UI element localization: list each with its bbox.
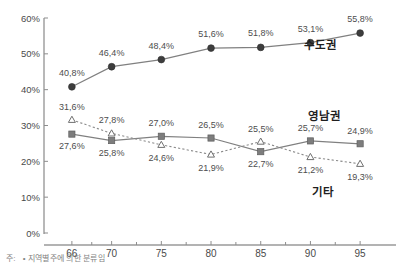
line-chart-canvas: 0%10%20%30%40%50%60%6670758085909540,8%4… bbox=[0, 0, 401, 267]
data-point bbox=[158, 56, 165, 63]
data-point bbox=[69, 131, 75, 137]
x-axis-label: 90 bbox=[305, 248, 317, 259]
data-point bbox=[68, 83, 75, 90]
series-name-label: 기타 bbox=[312, 185, 334, 198]
data-point-label: 46,4% bbox=[99, 48, 125, 58]
data-point-label: 31,6% bbox=[59, 102, 85, 112]
data-point-label: 22,7% bbox=[248, 159, 274, 169]
data-point-label: 40,8% bbox=[59, 68, 85, 78]
marker-triangle-icon bbox=[108, 130, 115, 136]
x-axis-label: 75 bbox=[156, 248, 168, 259]
x-axis-label: 85 bbox=[255, 248, 267, 259]
chart-footnote: 주:• 지역별주에 의한 분류임 bbox=[6, 252, 105, 263]
marker-square-icon bbox=[357, 141, 363, 147]
data-point-label: 25,7% bbox=[298, 123, 324, 133]
data-point-label: 24,6% bbox=[149, 153, 175, 163]
data-point-label: 27,6% bbox=[59, 141, 85, 151]
marker-circle-icon bbox=[208, 45, 215, 52]
footnote-key: 주: bbox=[6, 254, 16, 263]
y-axis-label: 60% bbox=[21, 13, 41, 24]
data-point bbox=[357, 30, 364, 37]
x-axis-label: 80 bbox=[205, 248, 217, 259]
y-axis-label: 40% bbox=[21, 84, 41, 95]
data-point-label: 25,8% bbox=[99, 148, 125, 158]
marker-circle-icon bbox=[68, 83, 75, 90]
data-point-label: 21,2% bbox=[298, 165, 324, 175]
data-point bbox=[307, 138, 313, 144]
data-point bbox=[357, 160, 364, 166]
data-point-label: 25,5% bbox=[248, 124, 274, 134]
marker-triangle-icon bbox=[68, 116, 75, 122]
marker-circle-icon bbox=[158, 56, 165, 63]
footnote-text: • 지역별주에 의한 분류임 bbox=[23, 254, 105, 263]
y-axis-label: 50% bbox=[21, 48, 41, 59]
marker-square-icon bbox=[109, 137, 115, 143]
marker-circle-icon bbox=[108, 63, 115, 70]
marker-circle-icon bbox=[257, 44, 264, 51]
data-point bbox=[208, 45, 215, 52]
data-point bbox=[158, 133, 164, 139]
y-axis-label: 20% bbox=[21, 156, 41, 167]
data-point bbox=[208, 135, 214, 141]
marker-square-icon bbox=[258, 149, 264, 155]
x-axis-label: 70 bbox=[106, 248, 118, 259]
data-point-label: 24,9% bbox=[347, 126, 373, 136]
data-point-label: 27,0% bbox=[149, 118, 175, 128]
y-axis-label: 10% bbox=[21, 192, 41, 203]
data-point-label: 53,1% bbox=[298, 24, 324, 34]
marker-triangle-icon bbox=[158, 141, 165, 147]
data-point-label: 26,5% bbox=[198, 120, 224, 130]
marker-triangle-icon bbox=[257, 138, 264, 144]
data-point bbox=[257, 44, 264, 51]
data-point bbox=[257, 138, 264, 144]
data-point bbox=[68, 116, 75, 122]
data-point-label: 27,8% bbox=[99, 115, 125, 125]
data-point bbox=[108, 63, 115, 70]
data-point bbox=[158, 141, 165, 147]
data-point-label: 55,8% bbox=[347, 14, 373, 24]
marker-square-icon bbox=[208, 135, 214, 141]
data-point-label: 19,3% bbox=[347, 172, 373, 182]
data-point bbox=[108, 130, 115, 136]
data-point bbox=[109, 137, 115, 143]
series-name-label: 수도권 bbox=[304, 39, 337, 51]
marker-square-icon bbox=[158, 133, 164, 139]
data-point-label: 51,6% bbox=[198, 29, 224, 39]
data-point bbox=[357, 141, 363, 147]
marker-square-icon bbox=[69, 131, 75, 137]
data-point-label: 48,4% bbox=[149, 41, 175, 51]
data-point bbox=[307, 153, 314, 159]
marker-triangle-icon bbox=[307, 153, 314, 159]
marker-circle-icon bbox=[357, 30, 364, 37]
data-point-label: 51,8% bbox=[248, 28, 274, 38]
x-axis-label: 95 bbox=[355, 248, 367, 259]
data-point bbox=[258, 149, 264, 155]
marker-square-icon bbox=[307, 138, 313, 144]
y-axis-label: 30% bbox=[21, 120, 41, 131]
chart-figure: 0%10%20%30%40%50%60%6670758085909540,8%4… bbox=[0, 0, 401, 267]
y-axis-label: 0% bbox=[26, 228, 40, 239]
data-point-label: 21,9% bbox=[198, 163, 224, 173]
series-name-label: 영남권 bbox=[308, 110, 341, 122]
marker-triangle-icon bbox=[357, 160, 364, 166]
